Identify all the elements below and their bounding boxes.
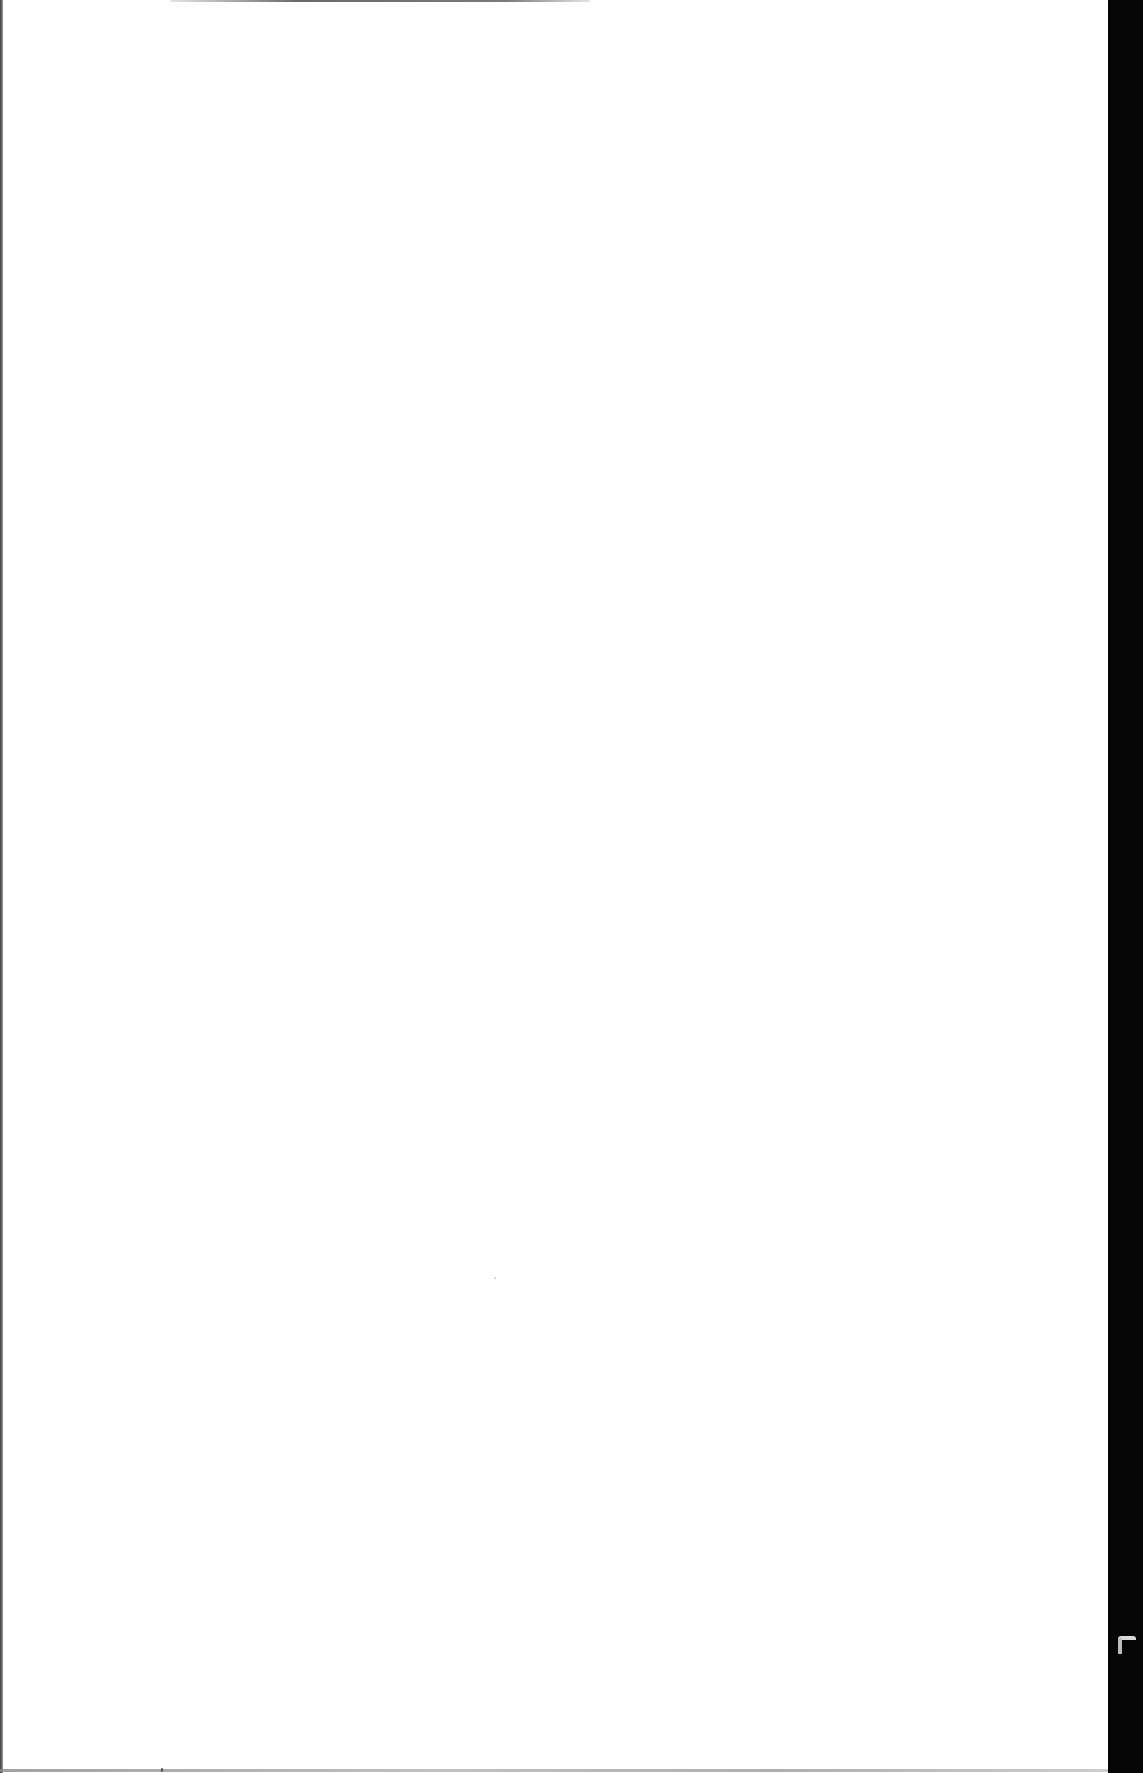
right-scan-border bbox=[1108, 0, 1143, 1773]
blank-page bbox=[0, 0, 1108, 1771]
scan-artifact bbox=[1118, 1636, 1136, 1640]
scanned-document bbox=[0, 0, 1143, 1773]
top-page-edge bbox=[170, 0, 590, 2]
dust-speck bbox=[494, 1277, 496, 1279]
dust-speck bbox=[161, 1768, 163, 1772]
bottom-page-edge bbox=[0, 1769, 1110, 1772]
left-page-edge bbox=[0, 0, 3, 1773]
